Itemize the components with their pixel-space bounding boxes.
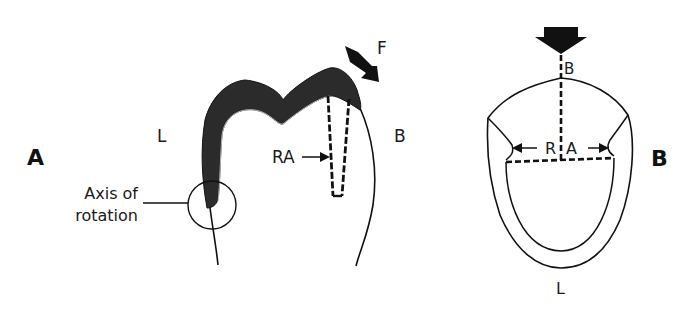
retention-channel xyxy=(328,96,349,196)
lingual-label-a: L xyxy=(157,126,167,146)
force-label: F xyxy=(377,38,387,58)
axis-label-line1: Axis of xyxy=(84,184,138,203)
tooth-outline-left xyxy=(209,200,218,265)
axis-label-line2: rotation xyxy=(75,206,138,225)
lingual-label-b: L xyxy=(556,279,565,298)
left-cusp-incline xyxy=(488,118,513,160)
inner-cavity-outline xyxy=(506,158,614,251)
restoration-crown xyxy=(202,68,361,208)
retention-arrow-right-icon xyxy=(588,143,609,153)
retention-area-label: RA xyxy=(272,147,295,167)
retention-label-r: R xyxy=(545,139,556,158)
panel-b: B R A L B xyxy=(488,27,668,298)
occlusal-force-arrow-icon xyxy=(535,27,587,54)
panel-b-label: B xyxy=(651,146,668,171)
retention-arrow-icon xyxy=(302,152,330,162)
panel-a-label: A xyxy=(27,145,44,170)
retention-label-a: A xyxy=(566,139,577,158)
outer-tooth-outline xyxy=(488,78,633,268)
panel-a: RA F L B A Axis of rotation xyxy=(27,38,406,266)
buccal-label-a: B xyxy=(394,126,406,146)
tooth-outline-right xyxy=(356,108,375,266)
right-cusp-incline xyxy=(608,115,628,156)
retention-arrow-left-icon xyxy=(512,143,537,153)
buccal-label-b: B xyxy=(564,60,574,78)
force-arrow-icon xyxy=(345,46,379,82)
tooth-restoration-diagram: RA F L B A Axis of rotation B xyxy=(0,0,699,313)
